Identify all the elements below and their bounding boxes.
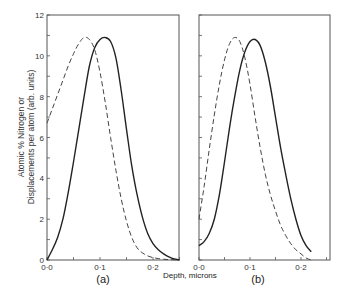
x-axis-label: Depth, microns [163,271,217,280]
y-axis-label-line2: Displacements per atom (arb. units) [26,27,36,247]
y-tick-label: 10 [35,52,44,61]
x-tick-label: 0·2 [147,263,159,272]
series-dashed-line [199,37,311,260]
x-tick-label: 0·2 [295,263,307,272]
panel-a-label: (a) [96,273,109,285]
x-tick-label: 0·0 [41,263,53,272]
y-axis-label-line1: Atomic % Nitrogen or [16,27,26,247]
series-solid-line [47,37,180,260]
y-tick-label: 2 [40,215,45,224]
plot-frame [47,15,179,260]
series-solid-line [199,39,311,252]
series-dashed-line [47,37,180,260]
panel-b: 0·00·10·2 [193,15,330,272]
y-tick-label: 6 [40,134,45,143]
y-tick-label: 8 [40,93,45,102]
panel-b-label: (b) [251,273,264,285]
y-tick-label: 12 [35,11,44,20]
x-tick-label: 0·1 [244,263,256,272]
figure-canvas: 0246810120·00·10·2 0·00·10·2 (a) (b) Dep… [0,0,343,298]
plot-frame [199,15,330,260]
y-axis-label: Atomic % Nitrogen or Displacements per a… [16,27,36,247]
y-tick-label: 4 [40,174,45,183]
x-tick-label: 0·1 [94,263,106,272]
panel-a: 0246810120·00·10·2 [35,11,179,272]
